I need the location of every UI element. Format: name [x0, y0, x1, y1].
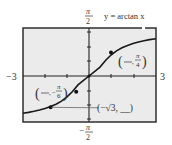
annotation-neg-sqrt3: (−√3, __): [97, 103, 133, 114]
leader-line: [51, 107, 99, 108]
svg-text:,: ,: [132, 58, 134, 66]
svg-text:4: 4: [136, 61, 140, 69]
svg-text:6: 6: [57, 92, 61, 100]
svg-text:): ): [63, 86, 68, 102]
y-max-num: π: [86, 7, 91, 16]
chart-title: y = arctan x: [104, 11, 145, 21]
svg-text:−: −: [52, 89, 56, 97]
svg-text:(: (: [118, 54, 123, 70]
svg-text:): ): [142, 54, 147, 70]
svg-text:π: π: [136, 52, 140, 60]
title-gap: [142, 26, 145, 30]
svg-text:π: π: [57, 83, 61, 91]
y-max-den: 2: [86, 17, 90, 26]
x-min-label: −3: [6, 71, 17, 82]
x-max-label: 3: [160, 71, 165, 82]
svg-text:(: (: [35, 86, 40, 102]
point-neg-pi-over-6: [74, 90, 78, 94]
arctan-chart: −3 3 π 2 − π 2 y = arctan x ( , π 4 ) ( …: [0, 0, 172, 145]
point-pi-over-4: [109, 51, 113, 55]
point-origin: [88, 75, 91, 78]
svg-text:,: ,: [49, 89, 51, 97]
y-min-sign: −: [79, 125, 84, 135]
y-min-den: 2: [86, 133, 90, 142]
y-min-num: π: [86, 123, 91, 132]
